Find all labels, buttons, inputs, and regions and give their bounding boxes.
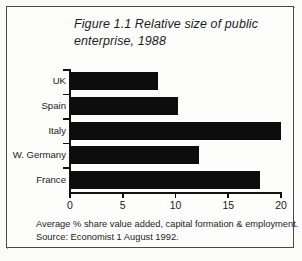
bar-uk [70,72,158,90]
category-label: Spain [0,100,66,112]
caption-line-1: Average % share value added, capital for… [36,218,286,231]
x-axis-tick-label: 10 [164,199,188,211]
bar-france [70,171,260,189]
y-axis-tick [63,143,70,145]
figure-container: Figure 1.1 Relative size of public enter… [0,0,302,261]
category-label: W. Germany [0,149,66,161]
y-axis-tick [63,94,70,96]
x-axis-tick [175,192,177,198]
category-label: Italy [0,125,66,137]
x-axis-tick [69,192,71,198]
bar-italy [70,122,281,140]
caption-line-2: Source: Economist 1 August 1992. [36,231,286,244]
y-axis-tick [63,118,70,120]
bar-spain [70,97,178,115]
x-axis-tick [280,192,282,198]
y-axis-tick [63,167,70,169]
x-axis-tick-label: 15 [216,199,240,211]
category-label: UK [0,75,66,87]
x-axis-tick-label: 5 [111,199,135,211]
x-axis-tick [122,192,124,198]
figure-caption: Average % share value added, capital for… [36,218,286,243]
x-axis-tick [227,192,229,198]
bar-w-germany [70,146,199,164]
category-label: France [0,174,66,186]
x-axis-tick-label: 20 [269,199,293,211]
x-axis-tick-label: 0 [58,199,82,211]
y-axis-tick [63,69,70,71]
